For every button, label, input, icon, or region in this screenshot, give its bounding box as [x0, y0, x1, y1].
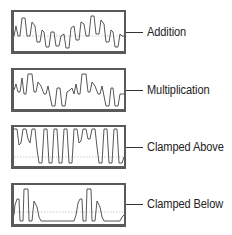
label-addition: Addition [147, 25, 186, 39]
connector-line-clamped-below [126, 204, 143, 205]
multiplication-waveform [14, 70, 124, 109]
label-multiplication: Multiplication [147, 83, 210, 97]
connector-line-multiplication [126, 90, 143, 91]
connector-line-addition [126, 32, 143, 33]
clamped-below-waveform [14, 185, 124, 224]
label-clamped-below: Clamped Below [147, 197, 223, 211]
waveform-panel-clamped-below [11, 183, 126, 227]
waveform-panel-multiplication [11, 68, 126, 112]
clamped-above-waveform [14, 127, 124, 166]
label-clamped-above: Clamped Above [147, 140, 224, 154]
waveform-panel-clamped-above [11, 125, 126, 169]
connector-line-clamped-above [126, 147, 143, 148]
waveform-panel-addition [11, 10, 126, 54]
addition-waveform [14, 12, 124, 51]
